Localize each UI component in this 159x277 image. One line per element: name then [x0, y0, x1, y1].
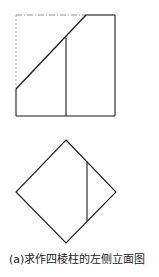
elevation-view — [16, 15, 115, 116]
plan-diamond — [16, 140, 116, 243]
prism-projection-drawing — [0, 0, 159, 277]
figure-caption: (a)求作四棱柱的左侧立面图 — [9, 250, 145, 266]
plan-view — [16, 140, 116, 243]
elevation-cut-plane — [16, 15, 86, 89]
